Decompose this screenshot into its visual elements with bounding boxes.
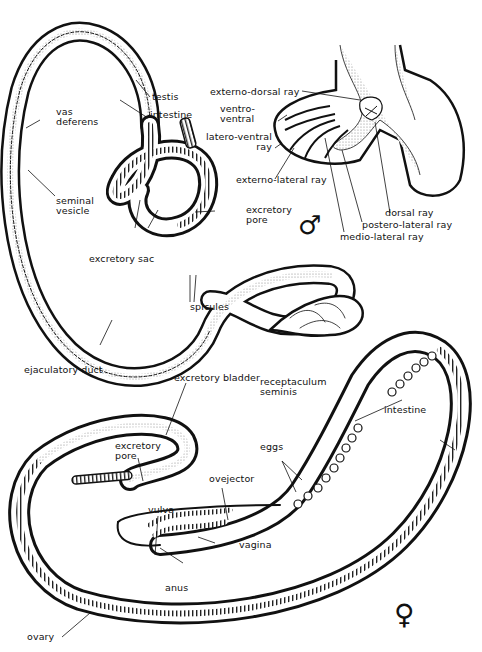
label-female-intestine: intestine [384, 405, 426, 415]
label-anus: anus [165, 583, 188, 593]
label-vulva: vulva [148, 505, 174, 515]
label-vagina: vagina [239, 540, 272, 550]
label-externo-dorsal-ray: externo-dorsal ray [210, 87, 299, 97]
label-eggs: eggs [260, 442, 283, 452]
label-ejaculatory-duct: ejaculatory duct [24, 365, 103, 375]
label-female-excretory-pore: excretory pore [115, 441, 161, 461]
label-medio-lateral-ray: medio-lateral ray [340, 232, 424, 242]
male-symbol: ♂ [298, 210, 321, 240]
label-seminal-vesicle: seminal vesicle [56, 196, 94, 216]
label-male-intestine: intestine [150, 110, 192, 120]
label-spicules: spicules [190, 302, 229, 312]
label-dorsal-ray: dorsal ray [385, 208, 434, 218]
label-ventro-ventral: ventro- ventral [220, 104, 255, 124]
label-externo-lateral-ray: externo-lateral ray [236, 175, 327, 185]
label-vas-deferens: vas deferens [56, 107, 98, 127]
label-postero-lateral-ray: postero-lateral ray [362, 220, 452, 230]
label-latero-ventral-ray: latero-ventral ray [206, 132, 272, 152]
worm-drawings [0, 0, 482, 652]
label-male-testis: testis [152, 92, 178, 102]
label-ovary: ovary [27, 632, 54, 642]
label-excretory-bladder: excretory bladder [174, 373, 260, 383]
female-symbol: ♀ [394, 598, 415, 631]
nematode-anatomy-figure: testis intestine vas deferens seminal ve… [0, 0, 482, 652]
label-receptaculum-seminis: receptaculum seminis [260, 377, 327, 397]
label-ovejector: ovejector [209, 474, 254, 484]
label-male-excretory-pore: excretory pore [246, 205, 292, 225]
label-excretory-sac: excretory sac [89, 254, 154, 264]
